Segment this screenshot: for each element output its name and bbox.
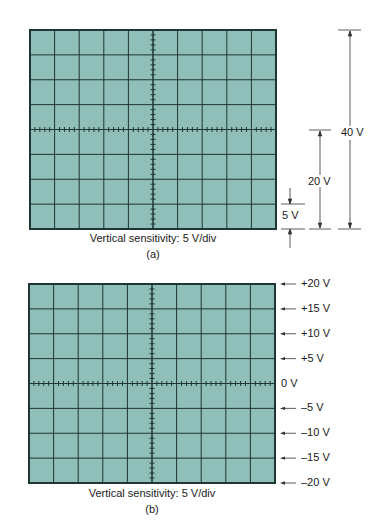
level-label-zero: 0 V (281, 377, 298, 389)
level-label-minus5: –5 V (301, 401, 324, 413)
level-label-plus15: +15 V (301, 302, 330, 314)
level-label-minus10: –10 V (301, 426, 330, 438)
level-label-minus15: –15 V (301, 451, 330, 463)
level-label-plus20: +20 V (301, 277, 330, 289)
level-label-plus10: +10 V (301, 327, 330, 339)
level-arrows-b (0, 0, 381, 522)
level-label-minus20: –20 V (301, 476, 330, 488)
level-label-plus5: +5 V (301, 352, 324, 364)
